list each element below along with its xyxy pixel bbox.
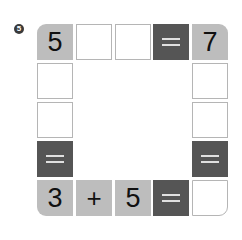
- answer-input-cell[interactable]: [192, 180, 228, 216]
- answer-input-cell[interactable]: [37, 63, 73, 99]
- problem-number-badge: 5: [14, 24, 24, 34]
- operator-cell: +: [76, 180, 112, 216]
- cell-value: 5: [125, 185, 140, 212]
- equals-sign-cell: [37, 141, 73, 177]
- number-cell: 3: [37, 180, 73, 216]
- plus-icon: +: [86, 185, 101, 211]
- equals-icon: [201, 155, 219, 163]
- equals-icon: [46, 155, 64, 163]
- equals-sign-cell: [153, 24, 189, 60]
- cell-value: 7: [202, 29, 217, 56]
- number-cell: 5: [115, 180, 151, 216]
- equals-sign-cell: [192, 141, 228, 177]
- cell-value: 3: [47, 185, 62, 212]
- cell-value: 5: [47, 29, 62, 56]
- number-cell: 7: [192, 24, 228, 60]
- answer-input-cell[interactable]: [76, 24, 112, 60]
- answer-input-cell[interactable]: [115, 24, 151, 60]
- number-cell: 5: [37, 24, 73, 60]
- equals-sign-cell: [153, 180, 189, 216]
- answer-input-cell[interactable]: [192, 63, 228, 99]
- answer-input-cell[interactable]: [192, 102, 228, 138]
- equals-icon: [162, 38, 180, 46]
- answer-input-cell[interactable]: [37, 102, 73, 138]
- equals-icon: [162, 194, 180, 202]
